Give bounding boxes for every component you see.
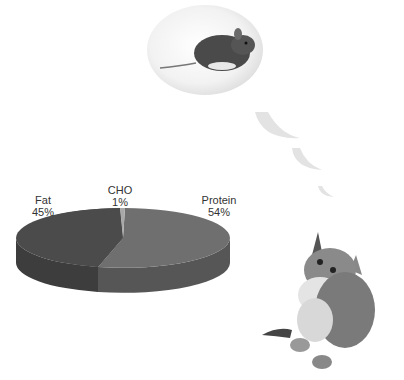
label-cho-value: 1%	[102, 196, 138, 208]
label-fat-name: Fat	[28, 194, 58, 206]
label-fat-value: 45%	[28, 206, 58, 218]
label-cho-name: CHO	[102, 184, 138, 196]
bubble-dot-3	[318, 186, 334, 197]
label-protein: Protein 54%	[198, 194, 240, 218]
label-fat: Fat 45%	[28, 194, 58, 218]
cat-icon	[262, 232, 375, 369]
bubble-dot-2	[292, 148, 322, 170]
label-protein-name: Protein	[198, 194, 240, 206]
thought-bubble	[147, 5, 334, 197]
illustration-canvas	[0, 0, 404, 380]
bubble-dot-1	[255, 112, 300, 138]
label-protein-value: 54%	[198, 206, 240, 218]
label-cho: CHO 1%	[102, 184, 138, 208]
pie-chart	[16, 208, 230, 293]
